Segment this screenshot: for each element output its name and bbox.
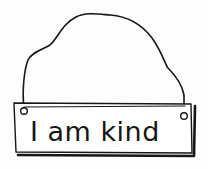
hanging-sign-illustration: I am kind [0, 0, 208, 169]
grommet-hole-icon [181, 113, 188, 120]
sign-text: I am kind [30, 116, 160, 147]
grommet-hole-icon [21, 108, 28, 115]
